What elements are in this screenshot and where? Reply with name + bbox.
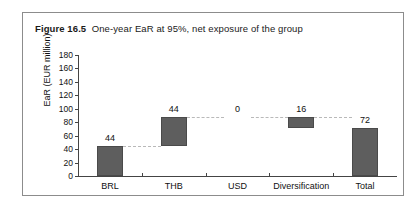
waterfall-connector (187, 117, 225, 118)
x-tick-label-total: Total (320, 182, 410, 191)
bar-value-label: 44 (154, 105, 194, 114)
x-tick-mark (333, 173, 334, 176)
y-tick-mark (75, 163, 78, 164)
y-tick-label: 120 (47, 91, 73, 100)
bar-thb[interactable] (161, 117, 187, 147)
x-axis-line (78, 176, 397, 177)
bar-value-label: 0 (218, 105, 258, 114)
figure-frame: Figure 16.5 One-year EaR at 95%, net exp… (22, 12, 404, 196)
y-tick-mark (75, 68, 78, 69)
y-tick-label: 60 (47, 132, 73, 141)
y-tick-label: 20 (47, 159, 73, 168)
y-tick-mark (75, 109, 78, 110)
bar-diversification[interactable] (288, 117, 314, 128)
waterfall-connector (314, 117, 352, 118)
y-tick-mark (75, 122, 78, 123)
y-tick-label: 0 (47, 172, 73, 181)
chart-plot-area: EaR (EUR million)02040608010012014016018… (23, 13, 405, 197)
y-tick-mark (75, 149, 78, 150)
y-tick-label: 40 (47, 145, 73, 154)
y-tick-label: 140 (47, 78, 73, 87)
y-tick-label: 160 (47, 64, 73, 73)
waterfall-connector (123, 146, 161, 147)
y-tick-label: 100 (47, 105, 73, 114)
y-tick-label: 80 (47, 118, 73, 127)
bar-value-label: 16 (281, 105, 321, 114)
y-tick-mark (75, 136, 78, 137)
x-tick-mark (142, 173, 143, 176)
waterfall-connector (251, 117, 289, 118)
y-tick-mark (75, 82, 78, 83)
y-tick-mark (75, 55, 78, 56)
y-tick-label: 180 (47, 51, 73, 60)
x-tick-mark (206, 173, 207, 176)
x-tick-mark (269, 173, 270, 176)
y-tick-mark (75, 176, 78, 177)
y-tick-mark (75, 95, 78, 96)
bar-brl[interactable] (97, 146, 123, 176)
y-axis-line (78, 55, 79, 177)
bar-value-label: 44 (90, 134, 130, 143)
bar-total[interactable] (352, 128, 378, 176)
